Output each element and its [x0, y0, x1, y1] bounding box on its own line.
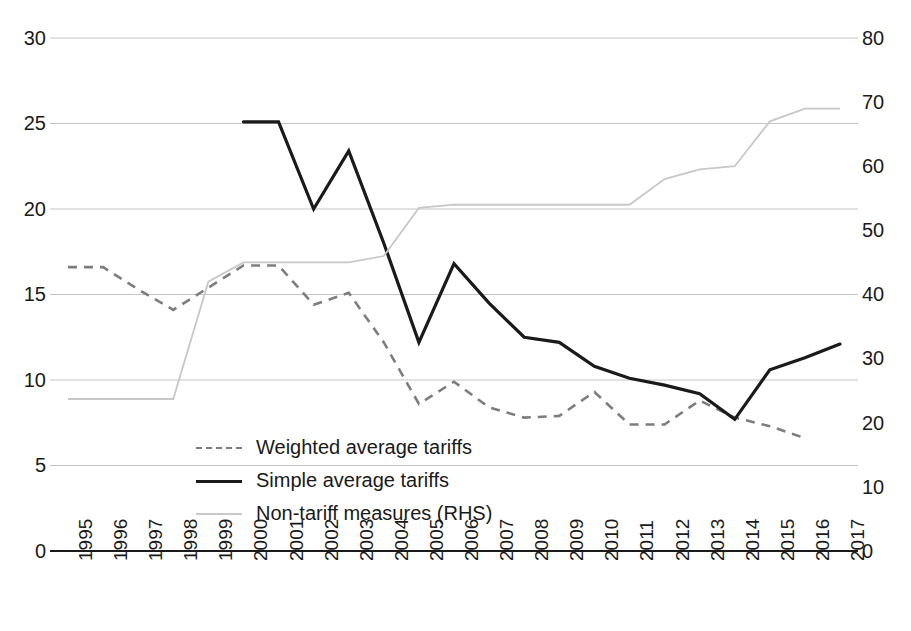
- x-axis-tick-2011: 2011: [637, 520, 656, 561]
- data-series-group: [68, 109, 840, 439]
- series-line-simple-average-tariffs: [243, 122, 840, 420]
- x-axis-tick-2007: 2007: [497, 519, 516, 561]
- x-axis-tick-2017: 2017: [848, 519, 867, 561]
- x-axis-tick-2013: 2013: [708, 519, 727, 561]
- x-axis-tick-1996: 1996: [111, 519, 130, 561]
- legend-swatch-ntm: [196, 513, 242, 515]
- x-axis-tick-2016: 2016: [813, 519, 832, 561]
- x-axis-tick-1998: 1998: [181, 519, 200, 561]
- series-line-weighted-average-tariffs: [68, 265, 805, 438]
- legend-label-ntm: Non-tariff measures (RHS): [256, 498, 492, 528]
- x-axis-tick-2014: 2014: [743, 519, 762, 561]
- plot-area: [0, 0, 911, 631]
- legend-swatch-weighted: [196, 447, 242, 449]
- x-axis-tick-2009: 2009: [567, 519, 586, 561]
- x-axis-tick-1995: 1995: [76, 519, 95, 561]
- x-axis-tick-1999: 1999: [216, 519, 235, 561]
- x-axis-tick-1997: 1997: [146, 519, 165, 561]
- legend-label-simple: Simple average tariffs: [256, 465, 449, 495]
- gridlines: [50, 38, 858, 466]
- chart-container: 30 25 20 15 10 5 0 80 70 60 50 40 30 20 …: [0, 0, 911, 631]
- legend-label-weighted: Weighted average tariffs: [256, 432, 472, 462]
- x-axis-tick-2015: 2015: [778, 519, 797, 561]
- series-line-non-tariff-measures-rhs: [68, 109, 840, 399]
- x-axis-tick-2010: 2010: [602, 519, 621, 561]
- legend-swatch-simple: [196, 480, 242, 483]
- x-axis-tick-2012: 2012: [673, 519, 692, 561]
- x-axis-tick-2008: 2008: [532, 519, 551, 561]
